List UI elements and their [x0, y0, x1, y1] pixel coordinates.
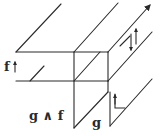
top-right-arrow-line — [108, 5, 150, 52]
label-g: g — [92, 116, 101, 129]
vertical-faces — [74, 52, 152, 128]
corner-arrow — [115, 94, 125, 108]
twist-arrows — [120, 29, 136, 50]
lower-sheet — [16, 32, 152, 81]
upper-sheet — [16, 3, 150, 52]
diagram-canvas — [0, 0, 164, 136]
label-g-and-f: g ∧ f — [29, 109, 63, 122]
label-f: f — [4, 60, 10, 73]
